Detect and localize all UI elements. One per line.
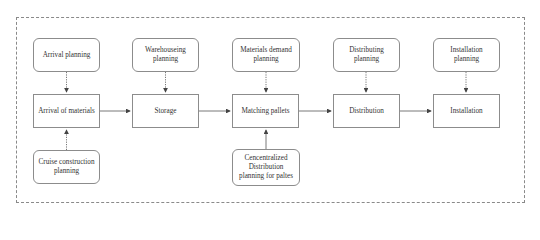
- node-label: Distribution: [349, 107, 384, 116]
- matching-pallets-node: Matching pallets: [232, 94, 299, 128]
- node-label: Arrival of materials: [38, 107, 95, 116]
- node-label: Installation: [450, 107, 482, 116]
- installation-node: Installation: [433, 94, 500, 128]
- materials-demand-planning-node: Materials demand planning: [232, 38, 300, 72]
- cruise-construction-planning-node: Cruise construction planning: [33, 150, 100, 184]
- node-label: Matching pallets: [241, 107, 289, 116]
- node-label: Materials demand planning: [236, 46, 296, 64]
- node-label: Distributing planning: [337, 46, 396, 64]
- node-label: Storage: [155, 107, 177, 116]
- node-label: Arrival planning: [43, 51, 91, 60]
- warehouseing-planning-node: Warehouseing planning: [132, 38, 199, 72]
- node-label: Cruise construction planning: [37, 158, 96, 176]
- node-label: Warehouseing planning: [136, 46, 195, 64]
- node-label: Installation planning: [437, 46, 496, 64]
- centralized-distribution-planning-node: Cencentralized Distribution planning for…: [232, 149, 300, 186]
- distributing-planning-node: Distributing planning: [333, 38, 400, 72]
- storage-node: Storage: [132, 94, 199, 128]
- arrival-of-materials-node: Arrival of materials: [33, 94, 100, 128]
- distribution-node: Distribution: [333, 94, 400, 128]
- arrival-planning-node: Arrival planning: [33, 38, 100, 72]
- node-label: Cencentralized Distribution planning for…: [236, 154, 296, 181]
- installation-planning-node: Installation planning: [433, 38, 500, 72]
